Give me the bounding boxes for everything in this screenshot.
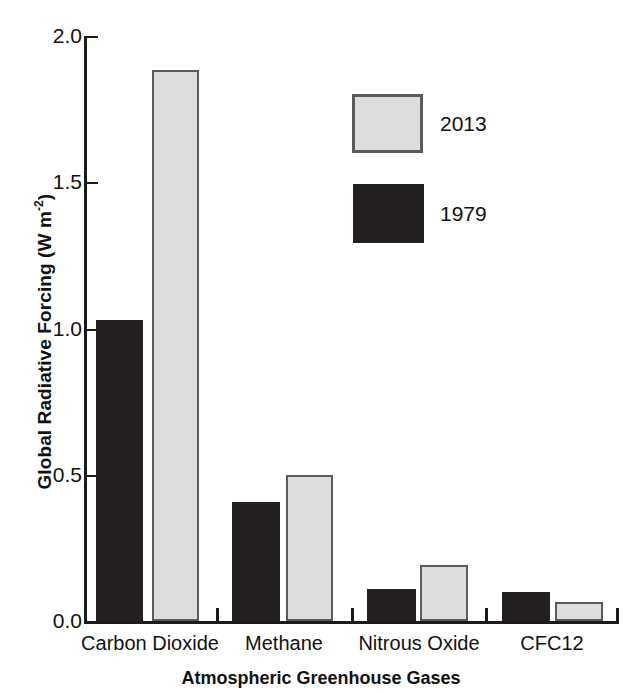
- legend-label-2013: 2013: [440, 112, 487, 136]
- y-tick-label-0.0: 0.0: [16, 609, 82, 633]
- y-axis-title: Global Radiative Forcing (W m-2): [32, 132, 55, 552]
- bar-cfc12-1979: [502, 592, 550, 621]
- legend-swatch-2013: [352, 94, 423, 153]
- y-tick-1.5: [87, 182, 98, 184]
- y-tick-label-0.5: 0.5: [16, 463, 82, 487]
- x-tick-label-carbon-dioxide: Carbon Dioxide: [80, 632, 220, 655]
- x-tick-label-methane: Methane: [218, 632, 350, 655]
- bar-chart-figure: Global Radiative Forcing (W m-2) 2.0 1.5…: [0, 0, 642, 694]
- y-tick-0.0: [87, 621, 98, 623]
- x-separator-tick-4: [616, 608, 619, 622]
- x-tick-label-nitrous-oxide: Nitrous Oxide: [352, 632, 486, 655]
- y-tick-label-1.5: 1.5: [16, 170, 82, 194]
- bar-methane-2013: [286, 475, 333, 621]
- y-axis-title-paren: ): [34, 194, 55, 200]
- y-tick-label-2.0: 2.0: [16, 24, 82, 48]
- y-axis-title-text: Global Radiative Forcing (W m: [34, 211, 55, 489]
- x-axis-title: Atmospheric Greenhouse Gases: [0, 668, 642, 689]
- x-tick-label-cfc12: CFC12: [487, 632, 617, 655]
- bar-cfc12-2013: [555, 602, 603, 621]
- bar-carbon-dioxide-2013: [152, 70, 199, 621]
- bar-methane-1979: [232, 502, 280, 621]
- y-tick-2.0: [87, 36, 98, 38]
- bar-nitrous-oxide-1979: [367, 589, 416, 621]
- y-axis-title-exponent: -2: [32, 200, 46, 211]
- y-tick-label-1.0: 1.0: [16, 317, 82, 341]
- x-separator-tick-2: [351, 608, 354, 622]
- bar-carbon-dioxide-1979: [96, 320, 143, 621]
- legend-swatch-1979: [353, 184, 424, 243]
- x-separator-tick-1: [216, 608, 219, 622]
- bar-nitrous-oxide-2013: [420, 565, 468, 621]
- legend-label-1979: 1979: [440, 202, 487, 226]
- x-separator-tick-3: [485, 608, 488, 622]
